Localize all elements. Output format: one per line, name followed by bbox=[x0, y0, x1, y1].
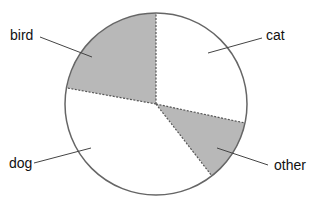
label-dog: dog bbox=[9, 155, 32, 171]
label-bird: bird bbox=[10, 27, 33, 43]
pie-chart: bird cat dog other bbox=[0, 0, 313, 211]
label-cat: cat bbox=[266, 27, 285, 43]
label-other: other bbox=[274, 157, 306, 173]
slice-cat bbox=[156, 13, 247, 123]
slice-bird bbox=[67, 13, 156, 104]
